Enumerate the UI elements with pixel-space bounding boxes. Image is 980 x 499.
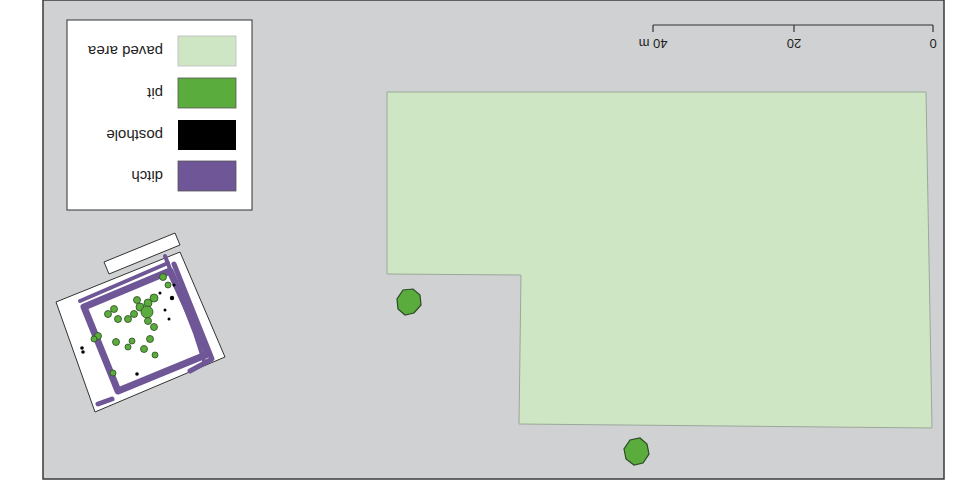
legend-swatch-paved-area [178,36,236,66]
legend-swatch-posthole [178,120,236,150]
scale-tick-0: 0 [929,36,936,51]
map-canvas: paved area pit posthole ditch 0 20 40 m [0,0,980,499]
map-page: paved area pit posthole ditch 0 20 40 m [0,0,980,499]
legend-label-pit: pit [146,85,163,102]
legend-label-ditch: ditch [131,168,163,185]
legend-label-posthole: posthole [106,127,163,144]
legend-label-paved-area: paved area [87,43,163,60]
scale-tick-40m: 40 m [639,36,668,51]
legend-swatch-ditch [178,161,236,191]
legend: paved area pit posthole ditch [67,20,252,210]
legend-swatch-pit [178,78,236,108]
scale-tick-20: 20 [787,36,801,51]
